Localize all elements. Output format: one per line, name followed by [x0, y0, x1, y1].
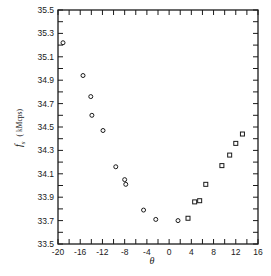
x-tick-label: 16	[253, 247, 263, 257]
circle-marker	[154, 217, 158, 221]
y-tick-label: 34.1	[37, 169, 54, 179]
square-marker	[234, 141, 238, 145]
y-tick-labels: 33.533.733.934.134.334.534.734.935.135.3…	[37, 5, 54, 249]
square-marker	[193, 200, 197, 204]
y-tick-label: 33.9	[37, 192, 54, 202]
y-tick-label: 34.7	[37, 99, 54, 109]
circle-marker	[124, 182, 128, 186]
circle-marker	[61, 41, 65, 45]
circle-marker	[114, 165, 118, 169]
data-points	[61, 41, 244, 223]
y-tick-label: 34.5	[37, 122, 54, 132]
circle-marker	[90, 113, 94, 117]
x-tick-label: -16	[74, 247, 87, 257]
axis-ticks	[58, 10, 258, 244]
x-tick-label: 12	[231, 247, 241, 257]
square-marker	[228, 153, 232, 157]
y-axis-title: fs( kMcps)	[13, 109, 27, 147]
square-marker	[198, 199, 202, 203]
circle-marker	[123, 178, 127, 182]
circle-marker	[89, 95, 93, 99]
square-marker	[240, 132, 244, 136]
square-marker	[186, 216, 190, 220]
y-tick-label: 35.5	[37, 5, 54, 15]
plot-frame	[58, 10, 258, 244]
y-tick-label: 33.7	[37, 216, 54, 226]
square-marker	[204, 182, 208, 186]
circle-marker	[142, 208, 146, 212]
scatter-chart: -20-16-12-8-40481216 33.533.733.934.134.…	[0, 0, 271, 276]
x-tick-labels: -20-16-12-8-40481216	[52, 247, 263, 257]
circle-marker	[101, 129, 105, 133]
x-tick-label: 8	[211, 247, 216, 257]
circle-marker	[81, 74, 85, 78]
y-tick-label: 34.3	[37, 145, 54, 155]
x-tick-label: -8	[121, 247, 129, 257]
circle-marker	[176, 219, 180, 223]
svg-text:fs( kMcps): fs( kMcps)	[13, 109, 27, 147]
y-axis-title-sub: s	[19, 141, 27, 144]
y-tick-label: 35.3	[37, 28, 54, 38]
y-axis-title-units: ( kMcps)	[15, 109, 24, 137]
x-axis-title: θ	[150, 255, 155, 266]
square-marker	[220, 164, 224, 168]
y-tick-label: 35.1	[37, 52, 54, 62]
x-tick-label: 0	[167, 247, 172, 257]
x-tick-label: -12	[96, 247, 109, 257]
plot-border	[58, 10, 258, 244]
x-tick-label: 4	[189, 247, 194, 257]
y-tick-label: 34.9	[37, 75, 54, 85]
y-tick-label: 33.5	[37, 239, 54, 249]
